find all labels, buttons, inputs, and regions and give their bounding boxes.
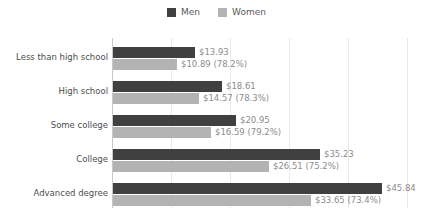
bar-chart: Men Women Less than high school High sch…: [0, 0, 433, 215]
bar-row-men[interactable]: $20.95: [113, 115, 433, 126]
bar-group-advanced-degree: $45.84 $33.65 (73.4%): [113, 183, 433, 206]
bar-group-college: $35.23 $26.51 (75.2%): [113, 149, 433, 172]
bar-row-men[interactable]: $45.84: [113, 183, 433, 194]
bar-value-men: $13.93: [199, 48, 229, 57]
y-axis-label-1: High school: [0, 87, 108, 96]
bar-men[interactable]: [113, 183, 382, 194]
legend-label-men: Men: [181, 8, 200, 17]
bar-group-less-than-high-school: $13.93 $10.89 (78.2%): [113, 47, 433, 70]
bar-group-some-college: $20.95 $16.59 (79.2%): [113, 115, 433, 138]
y-axis-label-2: Some college: [0, 121, 108, 130]
bar-women[interactable]: [113, 93, 199, 104]
y-axis-label-4: Advanced degree: [0, 189, 108, 198]
bar-value-women: $26.51 (75.2%): [273, 162, 339, 171]
legend-item-women[interactable]: Women: [218, 8, 266, 17]
legend-swatch-men: [167, 8, 176, 17]
bar-row-women[interactable]: $26.51 (75.2%): [113, 161, 433, 172]
bar-row-men[interactable]: $13.93: [113, 47, 433, 58]
bar-men[interactable]: [113, 149, 320, 160]
bar-women[interactable]: [113, 127, 211, 138]
bar-value-men: $20.95: [240, 116, 270, 125]
bar-row-men[interactable]: $35.23: [113, 149, 433, 160]
bar-row-women[interactable]: $16.59 (79.2%): [113, 127, 433, 138]
bar-value-women: $14.57 (78.3%): [203, 94, 269, 103]
y-axis-label-0: Less than high school: [0, 53, 108, 62]
bar-women[interactable]: [113, 59, 177, 70]
y-axis-labels: Less than high school High school Some c…: [0, 38, 108, 208]
bar-value-women: $10.89 (78.2%): [181, 60, 247, 69]
bar-row-women[interactable]: $33.65 (73.4%): [113, 195, 433, 206]
bar-value-women: $33.65 (73.4%): [315, 196, 381, 205]
bar-men[interactable]: [113, 47, 195, 58]
bar-men[interactable]: [113, 81, 222, 92]
bar-value-men: $18.61: [226, 82, 256, 91]
chart-legend: Men Women: [0, 8, 433, 17]
legend-label-women: Women: [232, 8, 266, 17]
plot-area: $13.93 $10.89 (78.2%) $18.61 $14.57 (78.…: [113, 38, 433, 208]
bar-row-women[interactable]: $10.89 (78.2%): [113, 59, 433, 70]
bar-women[interactable]: [113, 161, 269, 172]
bar-value-women: $16.59 (79.2%): [215, 128, 281, 137]
bar-value-men: $35.23: [324, 150, 354, 159]
y-axis-label-3: College: [0, 155, 108, 164]
bar-group-high-school: $18.61 $14.57 (78.3%): [113, 81, 433, 104]
legend-item-men[interactable]: Men: [167, 8, 200, 17]
bar-row-men[interactable]: $18.61: [113, 81, 433, 92]
legend-swatch-women: [218, 8, 227, 17]
bar-value-men: $45.84: [386, 184, 416, 193]
bar-row-women[interactable]: $14.57 (78.3%): [113, 93, 433, 104]
bar-women[interactable]: [113, 195, 311, 206]
bar-men[interactable]: [113, 115, 236, 126]
